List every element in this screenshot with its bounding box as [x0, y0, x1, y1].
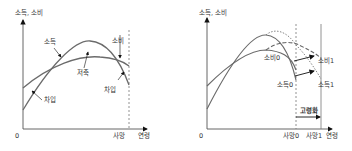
origin-label: 0	[199, 133, 203, 140]
consumption-curve	[23, 57, 129, 88]
saving-label: 저축	[77, 70, 89, 77]
x-axis-label: 연령	[326, 133, 338, 140]
origin-label: 0	[15, 133, 19, 140]
right-diagram-graphic	[176, 0, 352, 151]
borrow-late-label: 차입	[104, 87, 116, 94]
income1-label: 소득1	[318, 82, 334, 89]
death0-label: 사망0	[283, 133, 299, 140]
borrow-early-label: 차입	[44, 97, 56, 104]
income0-label: 소득0	[277, 82, 293, 89]
y-axis-label: 소득, 소비	[199, 10, 227, 17]
y-axis-label: 소득, 소비	[15, 10, 43, 17]
death1-label: 사망1	[306, 133, 322, 140]
right-diagram-panel: 소득, 소비 연령 0 사망0 사망1 소비0 소비1 소득0 소득1 고령화	[176, 0, 352, 151]
left-diagram-panel: 소득, 소비 연령 0 사망 소득 소비 저축 차입 차입	[0, 0, 176, 151]
income-curve-label: 소득	[44, 39, 56, 46]
aging-label: 고령화	[300, 108, 318, 115]
consumption-curve-label: 소비	[112, 38, 124, 45]
consumption0-label: 소비0	[264, 55, 280, 62]
income0-curve	[207, 35, 296, 109]
consumption1-label: 소비1	[318, 58, 334, 65]
death-label: 사망	[113, 133, 125, 140]
x-axis-label: 연령	[138, 133, 150, 140]
